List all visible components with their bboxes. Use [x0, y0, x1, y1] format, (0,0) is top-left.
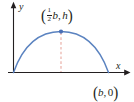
- intercept-close-paren: ): [113, 83, 118, 101]
- y-axis-arrowhead-icon: [11, 2, 17, 8]
- x-axis-arrowhead-icon: [124, 70, 130, 76]
- parabola-figure: y x ( 1 2 b , h ) ( b , 0 ): [0, 0, 134, 102]
- vertex-coordinate-label: ( 1 2 b , h ): [41, 7, 73, 23]
- intercept-coordinate-label: ( b , 0 ): [93, 85, 118, 99]
- fraction-numerator: 1: [47, 7, 53, 15]
- fraction-denominator: 2: [47, 16, 53, 24]
- y-axis: [11, 2, 17, 73]
- vertex-open-paren: (: [41, 6, 46, 24]
- x-axis: [8, 70, 131, 76]
- vertex-one-half-fraction: 1 2: [47, 7, 53, 23]
- y-axis-label: y: [19, 2, 23, 12]
- intercept-open-paren: (: [93, 83, 98, 101]
- x-axis-label: x: [116, 61, 120, 71]
- vertex-close-paren: ): [68, 6, 73, 24]
- vertex-comma: ,: [58, 10, 61, 21]
- intercept-comma: ,: [104, 87, 107, 98]
- vertex-point-marker: [59, 30, 63, 34]
